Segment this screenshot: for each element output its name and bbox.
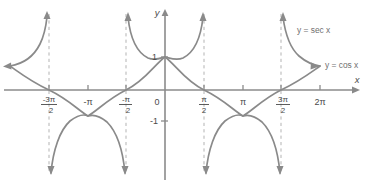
x-tick-label-neg-pi-2-numerator: -π [122,95,131,104]
x-tick-label-3pi-2-denominator: 2 [281,106,286,115]
secant-branch-pi-arrow-right-icon [277,166,284,175]
x-tick-label-neg-pi-2-denominator: 2 [126,106,131,115]
y-axis-label: y [154,7,161,18]
y-tick-label-neg-one: -1 [150,116,158,126]
x-tick-label-pi-2-denominator: 2 [202,106,207,115]
y-axis-arrow-icon [162,9,169,16]
series-label-cos: y = cos x [325,60,359,70]
x-tick-label-zero: 0 [154,97,159,107]
x-axis [4,85,360,94]
secant-branch-pi [206,115,280,173]
y-tick-label-one: 1 [152,52,157,62]
x-tick-label-pi: π [240,97,246,107]
x-tick-label-neg-3pi-2-numerator: -3π [43,95,56,104]
secant-branch-left-outer [10,17,47,66]
x-tick-label-2pi: 2π [314,97,325,107]
y-axis [161,9,168,180]
trig-graph-figure: y x 1 -1 0 -3π 2 -π -π 2 π 2 π 3π 2 2π y… [0,0,381,193]
x-tick-label-3pi-2-numerator: 3π [278,95,288,104]
secant-branch-neg-pi [51,115,125,173]
secant-branch-center-arrow-right-icon [200,12,207,21]
series-label-sec: y = sec x [297,25,331,35]
x-tick-label-neg-3pi-2-denominator: 2 [49,106,54,115]
x-tick-label-3pi-2: 3π 2 [276,95,290,115]
x-tick-label-neg-pi: -π [83,97,92,107]
x-axis-label: x [354,74,361,85]
x-axis-arrow-icon [352,87,360,94]
x-tick-label-pi-2-numerator: π [201,95,207,104]
secant-branch-neg-pi-arrow-right-icon [122,166,129,175]
